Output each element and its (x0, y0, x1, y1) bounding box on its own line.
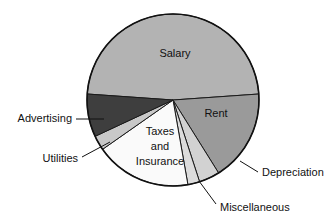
pie-label-advertising: Advertising (18, 112, 72, 124)
pie-chart-svg: SalaryRentDepreciationMiscellaneousTaxes… (0, 0, 330, 223)
pie-label-rent: Rent (204, 107, 227, 119)
pie-label-utilities: Utilities (43, 152, 79, 164)
pie-label-miscellaneous: Miscellaneous (220, 201, 290, 213)
leader-line-depreciation (240, 161, 258, 172)
pie-label-depreciation: Depreciation (262, 166, 324, 178)
pie-chart-figure: SalaryRentDepreciationMiscellaneousTaxes… (0, 0, 330, 223)
leader-line-miscellaneous (199, 181, 216, 204)
pie-label-salary: Salary (159, 47, 191, 59)
